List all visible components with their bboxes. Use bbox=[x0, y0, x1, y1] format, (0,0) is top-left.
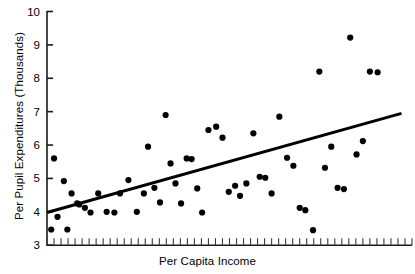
data-point bbox=[95, 190, 101, 196]
data-point bbox=[375, 69, 381, 75]
data-point bbox=[310, 227, 316, 233]
data-point bbox=[269, 190, 275, 196]
data-point bbox=[134, 209, 140, 215]
data-point bbox=[262, 175, 268, 181]
data-point bbox=[302, 207, 308, 213]
data-point bbox=[145, 144, 151, 150]
data-point bbox=[87, 209, 93, 215]
trend-line bbox=[47, 113, 401, 212]
data-point bbox=[178, 200, 184, 206]
data-point bbox=[163, 112, 169, 118]
scatter-chart: 345678910 Per Capita Income Per Pupil Ex… bbox=[0, 0, 415, 274]
data-point bbox=[297, 205, 303, 211]
data-point bbox=[257, 174, 263, 180]
data-point bbox=[237, 193, 243, 199]
data-point bbox=[284, 155, 290, 161]
data-point bbox=[322, 165, 328, 171]
data-point bbox=[64, 226, 70, 232]
data-point bbox=[199, 209, 205, 215]
data-point bbox=[250, 130, 256, 136]
data-point bbox=[54, 214, 60, 220]
data-point bbox=[151, 185, 157, 191]
data-point bbox=[82, 205, 88, 211]
data-point bbox=[141, 190, 147, 196]
data-point bbox=[328, 144, 334, 150]
x-axis-title: Per Capita Income bbox=[0, 254, 415, 268]
data-point bbox=[61, 178, 67, 184]
data-point bbox=[341, 186, 347, 192]
data-point bbox=[157, 199, 163, 205]
data-point bbox=[360, 138, 366, 144]
data-point bbox=[276, 114, 282, 120]
data-point bbox=[172, 180, 178, 186]
y-axis-title: Per Pupil Expenditures (Thousands) bbox=[11, 11, 27, 241]
data-point bbox=[213, 124, 219, 130]
x-axis-ticks bbox=[47, 238, 412, 245]
data-point bbox=[226, 189, 232, 195]
data-point bbox=[353, 151, 359, 157]
data-point bbox=[205, 127, 211, 133]
data-point bbox=[111, 209, 117, 215]
y-axis-title-wrapper: Per Pupil Expenditures (Thousands) bbox=[11, 11, 27, 241]
data-point bbox=[316, 68, 322, 74]
data-point bbox=[347, 34, 353, 40]
data-point bbox=[125, 177, 131, 183]
plot-area bbox=[0, 0, 415, 274]
data-point bbox=[334, 185, 340, 191]
data-point bbox=[194, 185, 200, 191]
data-point bbox=[290, 163, 296, 169]
data-point bbox=[68, 190, 74, 196]
data-point bbox=[219, 135, 225, 141]
data-point bbox=[243, 180, 249, 186]
data-point bbox=[367, 68, 373, 74]
data-point bbox=[167, 160, 173, 166]
data-point bbox=[232, 183, 238, 189]
data-point bbox=[51, 155, 57, 161]
data-point bbox=[188, 156, 194, 162]
data-point bbox=[104, 209, 110, 215]
data-point bbox=[48, 226, 54, 232]
axis-lines bbox=[47, 11, 412, 246]
